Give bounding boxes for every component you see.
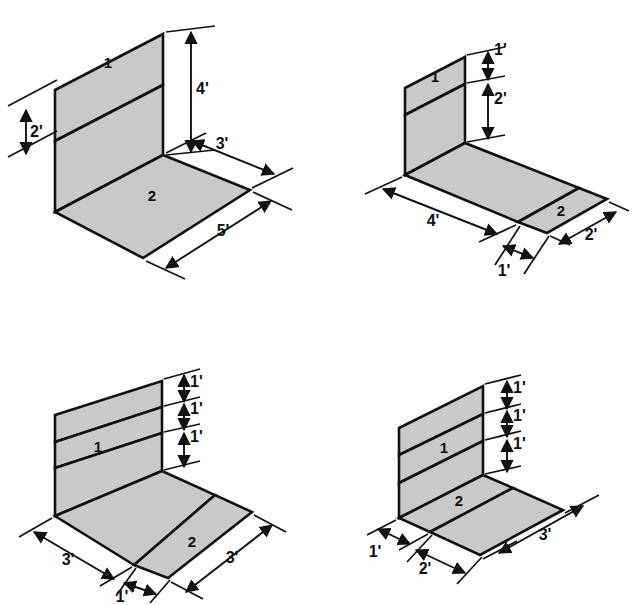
region-label-1: 1 — [431, 68, 439, 85]
ext-line-2ft-floor-a — [609, 202, 629, 211]
ext-line-4ft-a — [365, 177, 402, 194]
dim-label-1ft-b: 1' — [190, 400, 203, 417]
ext-line-1ft-floor-a — [495, 226, 520, 265]
figure-sheet: 1 2 2' 4' 3' 5' — [0, 0, 633, 605]
region-label-2: 2 — [557, 202, 565, 219]
dim-label-2ft: 2' — [30, 123, 43, 140]
ext-line-1ft-mid-b — [150, 580, 170, 603]
dim-label-1ft-wall: 1' — [494, 41, 507, 58]
dim-line-3ft — [192, 141, 274, 174]
dim-label-1ft-c: 1' — [190, 428, 203, 445]
ext-line-2ft-top — [8, 80, 57, 106]
dim-label-1ft-floor: 1' — [498, 262, 511, 279]
ext-line-4ft-top — [166, 26, 215, 32]
region-label-2: 2 — [148, 187, 156, 204]
dim-label-2ft-floor: 2' — [585, 226, 598, 243]
dim-label-1ft-c: 1' — [513, 435, 526, 452]
dim-label-1ft-mid: 1' — [116, 588, 129, 605]
ext-line-3ft-b — [252, 168, 293, 188]
dim-label-5ft: 5' — [217, 222, 230, 239]
dim-label-3ft: 3' — [216, 135, 229, 152]
dim-label-4ft: 4' — [196, 80, 209, 97]
figure-bottom-right: 1 2 1' 1' 1' 1' 2' — [317, 303, 633, 605]
ext-line-band-3 — [485, 466, 521, 474]
dim-label-3ft-left: 3' — [62, 551, 75, 568]
region-label-1: 1 — [440, 439, 448, 456]
dim-label-1ft-b: 1' — [513, 407, 526, 424]
ext-line-5ft-b — [146, 261, 185, 279]
dim-label-1ft-left: 1' — [369, 543, 382, 560]
dim-label-2ft-mid: 2' — [419, 560, 432, 577]
figure-top-left: 1 2 2' 4' 3' 5' — [0, 0, 316, 302]
figure-top-right-canvas: 1 2 1' 2' 4' 1' 2' — [317, 0, 633, 302]
dim-label-3ft-right: 3' — [226, 549, 239, 566]
figure-top-left-canvas: 1 2 2' 4' 3' 5' — [0, 0, 316, 302]
ext-line-3ft-right-a — [565, 495, 599, 513]
figure-bottom-right-canvas: 1 2 1' 1' 1' 1' 2' — [317, 303, 633, 605]
ext-line-2ft-wall-bottom — [467, 135, 505, 142]
ext-line-3ft-a — [166, 133, 206, 153]
dim-label-4ft: 4' — [427, 212, 440, 229]
ext-line-1ft-left-b — [399, 534, 428, 550]
dim-line-1ft-mid — [124, 583, 156, 594]
region-label-2: 2 — [455, 492, 463, 509]
dim-label-1ft-a: 1' — [513, 379, 526, 396]
ext-line-band-3 — [164, 461, 200, 470]
region-label-1: 1 — [104, 54, 112, 71]
dim-line-1ft-left — [378, 529, 410, 544]
dim-label-2ft-wall: 2' — [494, 90, 507, 107]
ext-line-3ft-right-a — [254, 515, 286, 532]
figure-bottom-left-canvas: 1 2 1' 1' 1' 3' 1' — [0, 303, 316, 605]
figure-top-right: 1 2 1' 2' 4' 1' 2' — [317, 0, 633, 302]
region-label-2: 2 — [188, 533, 196, 550]
ext-line-5ft-a — [253, 192, 292, 210]
dim-label-3ft-right: 3' — [539, 526, 552, 543]
ext-line-3ft-left-a — [19, 518, 52, 537]
region-label-1: 1 — [94, 438, 102, 455]
dim-line-1ft-floor — [503, 246, 533, 258]
figure-bottom-left: 1 2 1' 1' 1' 3' 1' — [0, 303, 316, 605]
ext-line-1ft-left-a — [367, 520, 396, 535]
dim-label-1ft-a: 1' — [190, 373, 203, 390]
ext-line-1ft-wall-bottom — [467, 76, 505, 83]
